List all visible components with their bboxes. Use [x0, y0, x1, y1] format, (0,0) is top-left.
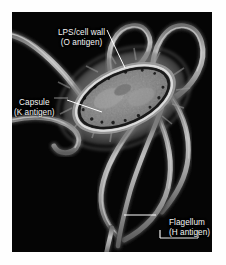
label-capsule: Capsule (K antigen) [14, 98, 55, 118]
figure-root: LPS/cell wall (O antigen) Capsule (K ant… [0, 0, 226, 265]
label-flagellum-line1: Flagellum [169, 218, 205, 227]
label-flagellum-line2: (H antigen) [169, 228, 210, 238]
label-capsule-line1: Capsule [19, 98, 49, 107]
micrograph-panel: LPS/cell wall (O antigen) Capsule (K ant… [12, 12, 212, 252]
label-flagellum: Flagellum (H antigen) [169, 218, 210, 238]
label-capsule-line2: (K antigen) [14, 108, 55, 118]
label-lps-line1: LPS/cell wall [58, 28, 105, 37]
label-lps-cell-wall: LPS/cell wall (O antigen) [58, 28, 105, 48]
micrograph-image [12, 12, 212, 252]
label-lps-line2: (O antigen) [58, 38, 105, 48]
